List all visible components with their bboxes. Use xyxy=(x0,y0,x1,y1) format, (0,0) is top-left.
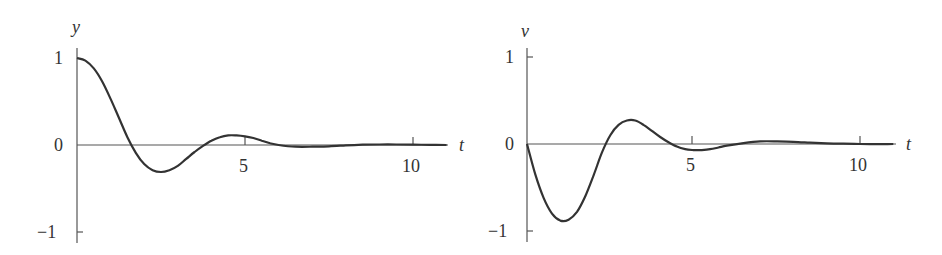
figure: y 1 0 −1 5 10 t v 1 0 −1 5 10 t xyxy=(0,0,942,255)
v-axis-label: v xyxy=(521,21,529,41)
xtick-label-10-right: 10 xyxy=(849,155,867,175)
ytick-label-minus1: −1 xyxy=(37,222,56,242)
xtick-label-5-right: 5 xyxy=(686,155,695,175)
ytick-label-0: 0 xyxy=(54,135,63,155)
v-curve xyxy=(527,120,893,221)
plot-v: v 1 0 −1 5 10 t xyxy=(488,21,912,242)
vtick-label-minus1: −1 xyxy=(488,221,507,241)
vtick-label-1: 1 xyxy=(505,47,514,67)
y-axis-label: y xyxy=(70,17,80,37)
t-axis-label-right: t xyxy=(906,134,912,154)
y-curve xyxy=(77,58,447,172)
plot-y: y 1 0 −1 5 10 t xyxy=(37,17,465,243)
t-axis-label: t xyxy=(459,135,465,155)
ytick-label-1: 1 xyxy=(54,48,63,68)
vtick-label-0: 0 xyxy=(505,134,514,154)
plots-svg: y 1 0 −1 5 10 t v 1 0 −1 5 10 t xyxy=(0,0,942,255)
xtick-label-5: 5 xyxy=(239,156,248,176)
xtick-label-10: 10 xyxy=(402,156,420,176)
